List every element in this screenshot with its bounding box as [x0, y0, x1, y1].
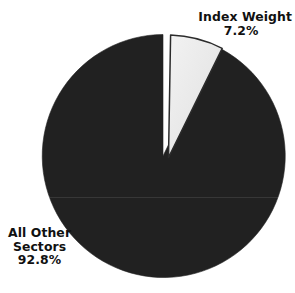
label-all-other-sectors: All Other Sectors 92.8% [8, 226, 71, 267]
label-index-weight: Index Weight 7.2% [198, 10, 292, 37]
label-index-weight-value: 7.2% [198, 24, 292, 38]
label-all-other-name-line2: Sectors [8, 240, 71, 254]
label-all-other-name-line1: All Other [8, 226, 71, 240]
label-index-weight-name: Index Weight [198, 10, 292, 24]
pie-chart: Index Weight 7.2% All Other Sectors 92.8… [0, 0, 295, 293]
pie-slice-all-other-sectors[interactable] [42, 35, 285, 278]
label-all-other-value: 92.8% [8, 253, 71, 267]
